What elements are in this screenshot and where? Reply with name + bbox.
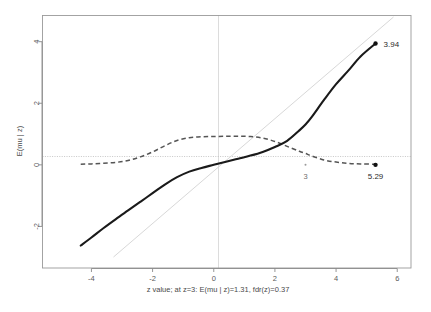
x-axis-title: z value; at z=3: E(mu | z)=1.31, fdr(z)=… bbox=[147, 285, 290, 294]
x-axis-tick-label: -4 bbox=[88, 274, 95, 283]
y-axis-tick-label: -2 bbox=[32, 223, 41, 230]
x-axis-tick-label: 2 bbox=[273, 274, 277, 283]
x-axis-tick-label: -2 bbox=[149, 274, 156, 283]
zmax-value-marker bbox=[373, 163, 377, 167]
figure-background bbox=[0, 0, 431, 312]
x-axis-tick-label: 4 bbox=[334, 274, 338, 283]
y-axis-title: E(mu | z) bbox=[15, 125, 24, 156]
chart-figure: -4-20246 -2024 3.945.293 z value; at z=3… bbox=[0, 0, 431, 312]
y-axis-tick-label: 0 bbox=[32, 163, 41, 167]
plot-canvas: -4-20246 -2024 3.945.293 z value; at z=3… bbox=[0, 0, 431, 312]
x-axis-tick-label: 6 bbox=[395, 274, 399, 283]
x-axis-tick-label: 0 bbox=[212, 274, 216, 283]
endpoint-value-label: 3.94 bbox=[384, 40, 400, 49]
y-axis-tick-label: 4 bbox=[32, 40, 41, 44]
endpoint-value-marker bbox=[373, 41, 377, 45]
y-axis-tick-label: 2 bbox=[32, 101, 41, 105]
z-three-tick-marker bbox=[304, 164, 306, 166]
z-three-tick-label: 3 bbox=[303, 172, 307, 181]
zmax-value-label: 5.29 bbox=[368, 172, 384, 181]
